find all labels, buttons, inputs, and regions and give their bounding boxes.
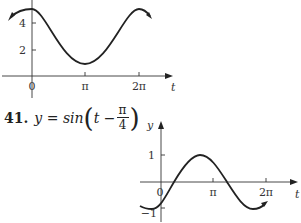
open-paren: ( bbox=[84, 105, 94, 131]
fraction-denominator: 4 bbox=[119, 118, 127, 132]
top-x-tick-2pi: 2π bbox=[132, 80, 146, 93]
pi-over-4-fraction: π 4 bbox=[117, 103, 129, 132]
bottom-x-tick-2pi: 2π bbox=[259, 186, 273, 199]
bottom-chart: y 1 −1 0 π 2π t bbox=[140, 119, 300, 222]
bottom-x-tick-0: 0 bbox=[157, 186, 164, 199]
bottom-x-arrow-icon bbox=[290, 179, 298, 185]
exercise-number: 41. bbox=[4, 110, 28, 126]
equation-arg: t − bbox=[94, 110, 116, 126]
top-y-tick-4: 4 bbox=[19, 17, 26, 30]
top-chart: 4 2 0 π 2π t bbox=[2, 0, 176, 98]
fraction-numerator: π bbox=[119, 103, 127, 117]
top-x-tick-0: 0 bbox=[29, 80, 36, 93]
bottom-y-tick-neg1: −1 bbox=[141, 207, 157, 220]
exercise-equation: 41. y = sin ( t − π 4 ) bbox=[4, 103, 140, 132]
bottom-y-arrow-icon bbox=[158, 121, 164, 129]
bottom-y-tick-1: 1 bbox=[148, 149, 155, 162]
top-x-arrow-icon bbox=[165, 73, 173, 79]
top-y-tick-2: 2 bbox=[19, 44, 26, 57]
bottom-y-axis-label: y bbox=[146, 119, 154, 132]
top-x-tick-pi: π bbox=[81, 80, 88, 93]
bottom-x-axis-label: t bbox=[295, 188, 300, 201]
bottom-x-tick-pi: π bbox=[209, 186, 216, 199]
close-paren: ) bbox=[130, 105, 140, 131]
top-x-axis-label: t bbox=[171, 81, 176, 94]
equation-lhs: y = sin bbox=[34, 110, 83, 126]
